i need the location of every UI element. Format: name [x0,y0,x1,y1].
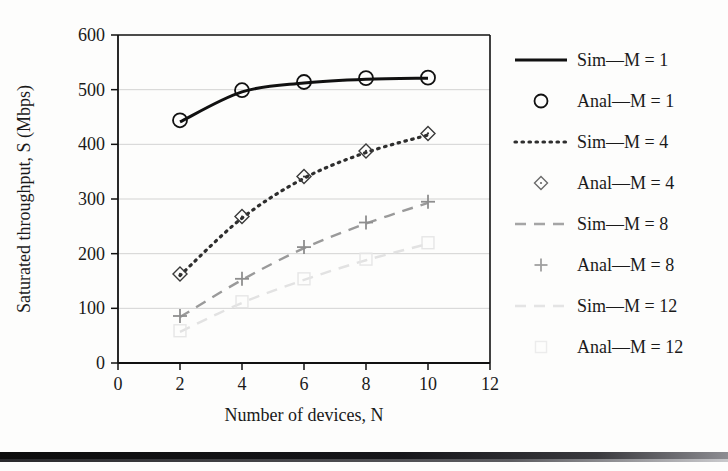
tick-label-x-0: 0 [114,374,123,394]
marker-s3-x4-dot [241,215,243,217]
tick-label-y-600: 600 [78,25,105,45]
legend-entry-7[interactable]: Anal—M = 12 [535,337,683,357]
legend-swatch-marker-3-dot [540,182,542,184]
y-axis-title: Saturated throughput, S (Mbps) [14,85,35,313]
marker-s3-x6-dot [303,175,305,177]
tick-label-y-400: 400 [78,134,105,154]
tick-label-x-4: 4 [238,374,247,394]
scan-artifact-bar [0,452,728,459]
legend-label-1: Anal—M = 1 [577,91,674,111]
legend-label-4: Sim—M = 8 [577,214,668,234]
legend-label-7: Anal—M = 12 [577,337,683,357]
marker-s3-x10-dot [427,132,429,134]
legend-entry-5[interactable]: Anal—M = 8 [535,255,675,275]
tick-label-y-0: 0 [96,353,105,373]
legend-label-3: Anal—M = 4 [577,173,674,193]
series-line-4 [180,203,428,317]
tick-label-x-8: 8 [362,374,371,394]
legend-entry-3[interactable]: Anal—M = 4 [535,173,675,193]
legend-entry-6[interactable]: Sim—M = 12 [515,296,677,316]
tick-label-x-6: 6 [300,374,309,394]
tick-label-y-300: 300 [78,189,105,209]
scan-artifact-bar-secondary [0,459,728,462]
tick-label-x-10: 10 [419,374,437,394]
legend-label-0: Sim—M = 1 [577,50,668,70]
tick-label-x-12: 12 [481,374,499,394]
tick-label-y-500: 500 [78,80,105,100]
legend-entry-1[interactable]: Anal—M = 1 [535,91,675,111]
tick-label-x-2: 2 [176,374,185,394]
legend-entry-4[interactable]: Sim—M = 8 [515,214,668,234]
throughput-chart: 0100200300400500600024681012Number of de… [0,0,728,471]
legend-label-2: Sim—M = 4 [577,132,668,152]
tick-label-y-100: 100 [78,298,105,318]
marker-s3-x2-dot [179,273,181,275]
legend-label-6: Sim—M = 12 [577,296,677,316]
legend-swatch-marker-7 [535,341,546,352]
series-line-0 [180,78,428,122]
legend-entry-2[interactable]: Sim—M = 4 [515,132,668,152]
legend-label-5: Anal—M = 8 [577,255,674,275]
legend-swatch-marker-1 [535,95,548,108]
legend-entry-0[interactable]: Sim—M = 1 [515,50,668,70]
figure-container: 0100200300400500600024681012Number of de… [0,0,728,471]
tick-label-y-200: 200 [78,244,105,264]
marker-s3-x8-dot [365,150,367,152]
series-line-6 [180,244,428,332]
x-axis-title: Number of devices, N [225,405,384,425]
marker-s7-x10 [422,237,434,249]
series-line-2 [180,135,428,275]
